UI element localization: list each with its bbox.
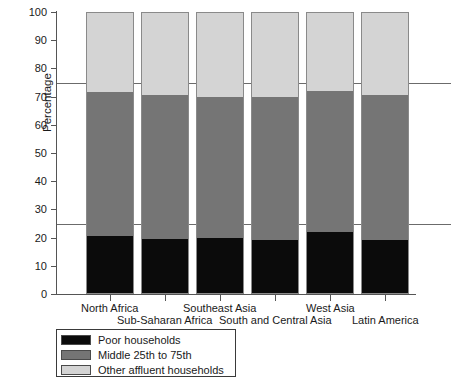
x-label-latin-america: Latin America bbox=[352, 314, 419, 326]
y-tick-60 bbox=[51, 125, 57, 126]
y-tick-label-40: 40 bbox=[0, 176, 47, 187]
y-tick-label-0: 0 bbox=[0, 289, 47, 300]
x-tick-5 bbox=[385, 295, 386, 301]
y-tick-30 bbox=[51, 209, 57, 210]
y-tick-20 bbox=[51, 238, 57, 239]
y-tick-50 bbox=[51, 153, 57, 154]
stacked-bar-chart: Percentage 0102030405060708090100 North … bbox=[0, 0, 459, 382]
x-label-south-and-central-asia: South and Central Asia bbox=[219, 314, 332, 326]
y-tick-label-100: 100 bbox=[0, 7, 47, 18]
y-tick-label-80: 80 bbox=[0, 63, 47, 74]
x-tick-4 bbox=[330, 295, 331, 301]
y-tick-label-60: 60 bbox=[0, 120, 47, 131]
legend-swatch-middle-25th-to-75th bbox=[61, 350, 91, 360]
legend-item: Middle 25th to 75th bbox=[61, 348, 231, 362]
y-tick-70 bbox=[51, 97, 57, 98]
x-label-west-asia: West Asia bbox=[306, 302, 355, 314]
y-tick-10 bbox=[51, 266, 57, 267]
reference-line-75 bbox=[57, 83, 451, 84]
y-tick-label-50: 50 bbox=[0, 148, 47, 159]
y-tick-label-30: 30 bbox=[0, 204, 47, 215]
y-tick-90 bbox=[51, 40, 57, 41]
y-tick-100 bbox=[51, 12, 57, 13]
legend-label-poor-households: Poor households bbox=[98, 335, 181, 346]
x-label-sub-saharan-africa: Sub-Saharan Africa bbox=[117, 314, 212, 326]
x-label-north-africa: North Africa bbox=[81, 302, 138, 314]
x-label-southeast-asia: Southeast Asia bbox=[183, 302, 256, 314]
chart-legend: Poor households Middle 25th to 75th Othe… bbox=[56, 329, 236, 377]
legend-swatch-other-affluent-households bbox=[61, 365, 91, 375]
y-tick-80 bbox=[51, 68, 57, 69]
y-tick-label-90: 90 bbox=[0, 35, 47, 46]
x-tick-3 bbox=[275, 295, 276, 301]
legend-item: Other affluent households bbox=[61, 363, 231, 377]
legend-label-middle-25th-to-75th: Middle 25th to 75th bbox=[98, 350, 192, 361]
y-tick-label-20: 20 bbox=[0, 233, 47, 244]
y-tick-label-10: 10 bbox=[0, 261, 47, 272]
y-tick-0 bbox=[51, 294, 57, 295]
legend-label-other-affluent-households: Other affluent households bbox=[98, 365, 224, 376]
x-tick-1 bbox=[165, 295, 166, 301]
legend-item: Poor households bbox=[61, 333, 231, 347]
reference-line-25 bbox=[57, 224, 451, 225]
x-tick-0 bbox=[110, 295, 111, 301]
y-tick-label-70: 70 bbox=[0, 92, 47, 103]
x-tick-2 bbox=[220, 295, 221, 301]
y-tick-40 bbox=[51, 181, 57, 182]
legend-swatch-poor-households bbox=[61, 335, 91, 345]
plot-area: Percentage bbox=[57, 12, 415, 294]
